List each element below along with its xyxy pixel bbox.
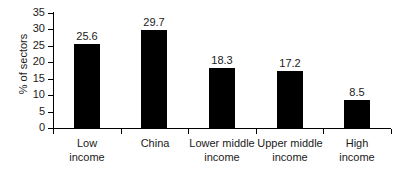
y-axis-tick-label: 20 [25, 56, 45, 67]
bar [277, 71, 303, 128]
x-axis-tick [256, 129, 257, 134]
x-axis-line [53, 128, 391, 129]
x-category-label-line: High [323, 136, 391, 150]
y-axis-tick-label: 0 [25, 122, 45, 133]
y-axis-tick-label: 35 [25, 7, 45, 18]
bar-value-label: 17.2 [270, 57, 310, 69]
x-category-label-line: Upper middle [256, 136, 324, 150]
x-axis-tick [323, 129, 324, 134]
x-axis-tick [53, 129, 54, 134]
y-axis-tick-label: 30 [25, 23, 45, 34]
x-category-label: China [121, 136, 189, 150]
x-category-label-line: Lower middle [188, 136, 256, 150]
x-category-label: Highincome [323, 136, 391, 164]
bar [344, 100, 370, 128]
x-category-label-line: income [53, 150, 121, 164]
bar-value-label: 25.6 [67, 30, 107, 42]
bar [141, 30, 167, 128]
x-category-label-line: income [188, 150, 256, 164]
x-category-label: Lowincome [53, 136, 121, 164]
x-category-label-line: income [323, 150, 391, 164]
y-axis-tick-label: 25 [25, 40, 45, 51]
y-axis-tick-label: 10 [25, 89, 45, 100]
x-category-label-line: China [121, 136, 189, 150]
bar-chart: % of sectors 35302520151050 25.629.718.3… [0, 0, 401, 171]
x-category-label: Upper middleincome [256, 136, 324, 164]
bar [209, 68, 235, 128]
bar [74, 44, 100, 128]
y-axis-tick-label: 5 [25, 106, 45, 117]
x-category-label-line: income [256, 150, 324, 164]
x-axis-tick [121, 129, 122, 134]
bar-value-label: 18.3 [202, 54, 242, 66]
x-axis-tick [391, 129, 392, 134]
x-category-label: Lower middleincome [188, 136, 256, 164]
bar-value-label: 8.5 [337, 86, 377, 98]
bar-value-label: 29.7 [134, 16, 174, 28]
y-axis-tick-label: 15 [25, 73, 45, 84]
x-category-label-line: Low [53, 136, 121, 150]
x-axis-tick [188, 129, 189, 134]
